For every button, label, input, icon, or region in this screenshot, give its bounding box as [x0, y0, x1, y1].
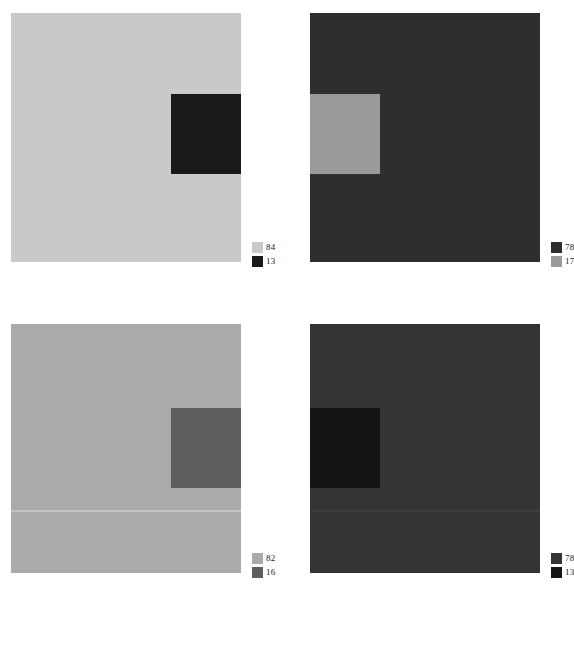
panel-top-left-dark-square-region [171, 94, 241, 174]
legend-value: 16 [266, 567, 275, 578]
legend-swatch-icon [551, 553, 562, 564]
panel-top-right-light-square-region [310, 94, 380, 174]
panel-top-right-legend: 7817 [551, 241, 574, 267]
panel-top-left-image [11, 13, 241, 262]
legend-swatch-icon [252, 567, 263, 578]
legend-swatch-icon [252, 256, 263, 267]
panel-bottom-right-dark-square-region [310, 408, 380, 488]
panel-top-left: 8413 [11, 13, 241, 262]
legend-swatch-icon [551, 242, 562, 253]
legend-value: 13 [565, 567, 574, 578]
legend-entry: 78 [551, 552, 574, 564]
legend-swatch-icon [551, 567, 562, 578]
panel-bottom-left-horizontal-seam [11, 510, 241, 512]
legend-value: 82 [266, 553, 275, 564]
panel-bottom-right-image [310, 324, 540, 573]
legend-swatch-icon [551, 256, 562, 267]
legend-value: 13 [266, 256, 275, 267]
panel-bottom-left-legend: 8216 [252, 552, 275, 578]
legend-entry: 82 [252, 552, 275, 564]
panel-bottom-right-legend: 7813 [551, 552, 574, 578]
panel-top-right-image [310, 13, 540, 262]
legend-value: 78 [565, 242, 574, 253]
panel-bottom-right: 7813 [310, 324, 540, 573]
panel-bottom-left: 8216 [11, 324, 241, 573]
legend-entry: 17 [551, 255, 574, 267]
panel-bottom-left-dark-square-region [171, 408, 241, 488]
legend-entry: 16 [252, 566, 275, 578]
legend-value: 84 [266, 242, 275, 253]
panel-top-left-legend: 8413 [252, 241, 275, 267]
panel-bottom-left-image [11, 324, 241, 573]
legend-entry: 13 [551, 566, 574, 578]
legend-entry: 78 [551, 241, 574, 253]
legend-entry: 13 [252, 255, 275, 267]
panel-bottom-right-horizontal-seam [310, 510, 540, 512]
panel-top-right: 7817 [310, 13, 540, 262]
legend-entry: 84 [252, 241, 275, 253]
legend-value: 17 [565, 256, 574, 267]
legend-value: 78 [565, 553, 574, 564]
legend-swatch-icon [252, 242, 263, 253]
legend-swatch-icon [252, 553, 263, 564]
